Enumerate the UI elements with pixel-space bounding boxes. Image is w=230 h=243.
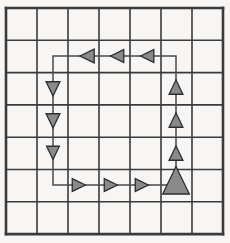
diagram-canvas <box>0 0 230 243</box>
grid-path-diagram <box>0 0 230 243</box>
diagram-background <box>0 0 230 243</box>
